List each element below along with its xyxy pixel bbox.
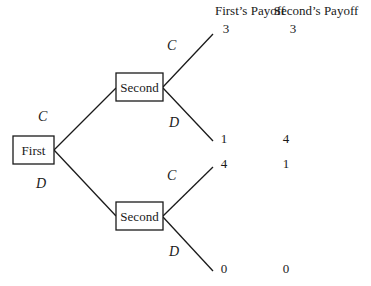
payoff-first-4: 0 bbox=[221, 261, 228, 276]
edge-label-lower-d: D bbox=[168, 244, 179, 259]
payoff-first-1: 3 bbox=[223, 21, 230, 36]
edge-first-d bbox=[54, 150, 116, 216]
edge-label-first-d: D bbox=[35, 176, 46, 191]
game-tree: First Second Second C D C D C D First’s … bbox=[0, 0, 371, 286]
node-second-lower-label: Second bbox=[120, 209, 159, 224]
node-second-upper: Second bbox=[116, 73, 163, 101]
payoff-second-4: 0 bbox=[283, 261, 290, 276]
edge-label-lower-c: C bbox=[167, 168, 177, 183]
edge-first-c bbox=[54, 88, 116, 150]
node-first: First bbox=[13, 136, 54, 164]
payoff-second-2: 4 bbox=[283, 131, 290, 146]
node-second-lower: Second bbox=[116, 202, 163, 230]
header-second-payoff: Second’s Payoff bbox=[274, 3, 359, 18]
payoff-second-3: 1 bbox=[283, 156, 290, 171]
payoff-first-2: 1 bbox=[221, 131, 228, 146]
edge-label-upper-d: D bbox=[168, 115, 179, 130]
payoff-first-3: 4 bbox=[221, 156, 228, 171]
node-first-label: First bbox=[22, 143, 46, 158]
node-second-upper-label: Second bbox=[120, 80, 159, 95]
edge-label-first-c: C bbox=[38, 109, 48, 124]
payoff-second-1: 3 bbox=[290, 21, 297, 36]
edge-label-upper-c: C bbox=[167, 38, 177, 53]
